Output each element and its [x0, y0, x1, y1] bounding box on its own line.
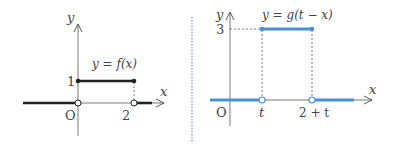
left-open-dot-2: [131, 100, 137, 106]
left-y-tick: 1: [67, 74, 75, 89]
right-y-label: y: [215, 7, 224, 22]
right-y-tick: 3: [216, 22, 224, 37]
right-function-label: y = g(t − x): [261, 8, 333, 22]
right-origin-label: O: [216, 105, 227, 120]
left-open-dot-origin: [75, 100, 81, 106]
right-graph: y x O 3 t 2 + t y = g(t − x): [210, 7, 377, 126]
right-open-dot-t: [259, 97, 265, 103]
right-x-tick-t: t: [259, 105, 265, 120]
left-y-label: y: [66, 10, 75, 25]
figure: y x O 1 2 y = f(x) y x O 3 t 2 + t y = g…: [0, 0, 399, 151]
left-closed-dot-1: [76, 79, 81, 84]
left-x-tick: 2: [122, 108, 130, 123]
left-closed-dot-2: [132, 79, 137, 84]
right-x-tick-2t: 2 + t: [299, 106, 329, 120]
left-x-label: x: [160, 84, 168, 99]
right-closed-dot-t: [260, 27, 265, 32]
left-function-label: y = f(x): [91, 57, 137, 71]
right-x-label: x: [369, 82, 377, 97]
right-closed-dot-2t: [310, 27, 315, 32]
left-graph: y x O 1 2 y = f(x): [23, 10, 168, 136]
right-open-dot-2t: [309, 97, 315, 103]
left-origin-label: O: [65, 108, 76, 123]
